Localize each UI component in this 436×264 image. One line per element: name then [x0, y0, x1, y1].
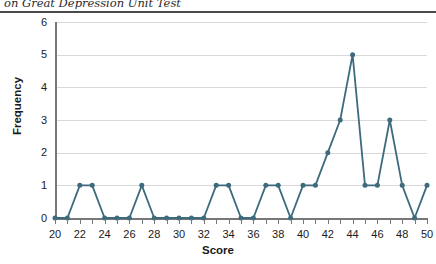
x-tick-label: 20 — [42, 228, 68, 240]
x-tick — [390, 219, 391, 224]
x-tick-label: 46 — [364, 228, 390, 240]
x-tick — [253, 219, 254, 224]
x-tick-label: 24 — [92, 228, 118, 240]
x-tick — [266, 219, 267, 224]
x-tick-label: 38 — [265, 228, 291, 240]
x-tick-label: 32 — [191, 228, 217, 240]
x-tick-label: 50 — [414, 228, 436, 240]
x-tick-label: 28 — [141, 228, 167, 240]
x-tick — [129, 219, 130, 224]
x-tick — [216, 219, 217, 224]
x-tick — [291, 219, 292, 224]
data-point — [313, 183, 318, 188]
x-tick — [204, 219, 205, 224]
x-tick-label: 48 — [389, 228, 415, 240]
data-point — [214, 183, 219, 188]
x-axis-title: Score — [0, 244, 436, 256]
x-tick — [117, 219, 118, 224]
x-tick — [278, 219, 279, 224]
y-tick-label: 3 — [25, 115, 47, 126]
chart-figure: on Great Depression Unit Test Score Freq… — [0, 0, 436, 264]
x-tick — [154, 219, 155, 224]
x-tick-label: 42 — [315, 228, 341, 240]
x-tick-label: 36 — [240, 228, 266, 240]
data-point — [276, 183, 281, 188]
x-tick — [353, 219, 354, 224]
y-axis-title: Frequency — [11, 51, 23, 161]
y-tick-label: 1 — [25, 180, 47, 191]
x-tick — [365, 219, 366, 224]
y-tick-label: 4 — [25, 82, 47, 93]
data-point — [400, 183, 405, 188]
x-tick-label: 26 — [116, 228, 142, 240]
x-tick — [340, 219, 341, 224]
data-point — [425, 183, 430, 188]
x-tick-label: 34 — [216, 228, 242, 240]
x-tick-label: 44 — [340, 228, 366, 240]
x-tick — [55, 219, 56, 224]
x-tick — [377, 219, 378, 224]
x-tick — [402, 219, 403, 224]
x-tick — [303, 219, 304, 224]
x-tick — [67, 219, 68, 224]
x-tick — [142, 219, 143, 224]
y-tick-label: 5 — [25, 49, 47, 60]
x-tick-label: 22 — [67, 228, 93, 240]
data-point — [77, 183, 82, 188]
x-tick — [427, 219, 428, 224]
x-tick — [229, 219, 230, 224]
data-point — [263, 183, 268, 188]
x-tick — [167, 219, 168, 224]
data-point — [139, 183, 144, 188]
data-point — [350, 52, 355, 57]
x-tick — [315, 219, 316, 224]
x-tick-label: 30 — [166, 228, 192, 240]
data-point — [301, 183, 306, 188]
data-point — [325, 150, 330, 155]
x-tick — [105, 219, 106, 224]
data-point — [363, 183, 368, 188]
x-tick — [415, 219, 416, 224]
y-tick-label: 0 — [25, 213, 47, 224]
data-point — [90, 183, 95, 188]
data-point — [375, 183, 380, 188]
x-tick — [179, 219, 180, 224]
y-tick-label: 2 — [25, 147, 47, 158]
x-tick-label: 40 — [290, 228, 316, 240]
x-tick — [328, 219, 329, 224]
frequency-series — [0, 0, 436, 264]
x-tick — [80, 219, 81, 224]
y-tick-label: 6 — [25, 17, 47, 28]
data-point — [387, 118, 392, 123]
data-point — [226, 183, 231, 188]
x-tick — [191, 219, 192, 224]
data-point — [338, 118, 343, 123]
x-tick — [92, 219, 93, 224]
x-tick — [241, 219, 242, 224]
series-line — [55, 55, 427, 218]
